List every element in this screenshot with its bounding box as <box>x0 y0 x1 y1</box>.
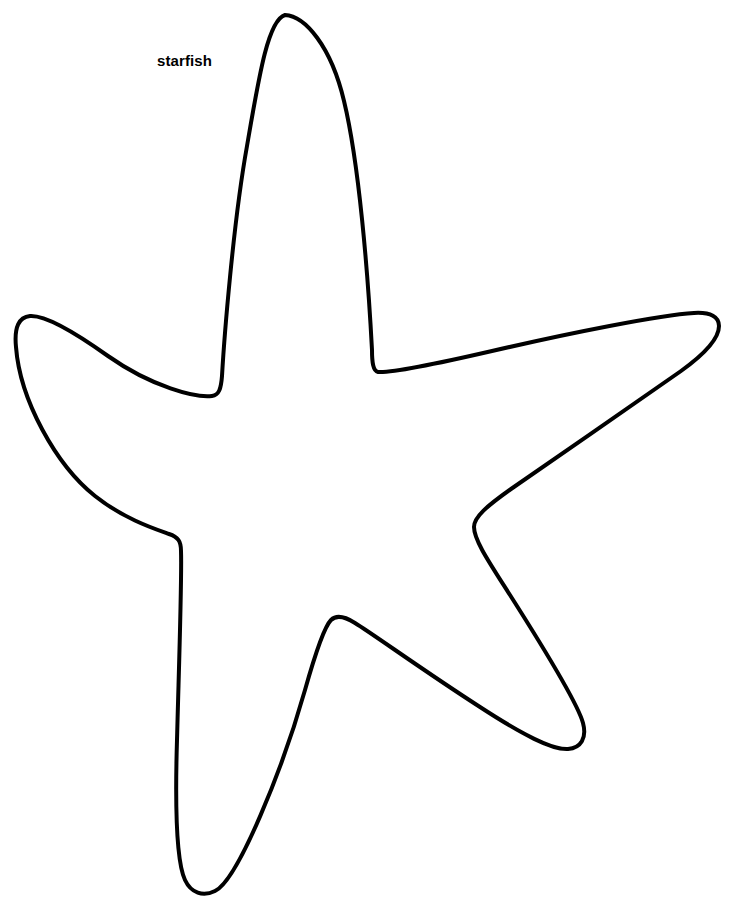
page-background <box>0 0 741 913</box>
shape-label: starfish <box>157 52 212 70</box>
stencil-page: starfish <box>0 0 741 913</box>
starfish-outline-drawing <box>0 0 741 913</box>
